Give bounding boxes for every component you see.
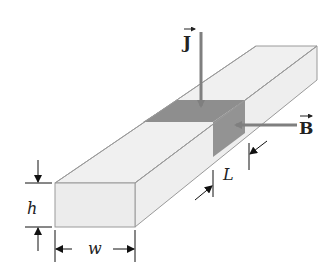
height-label: h xyxy=(27,199,37,218)
bar-front-face xyxy=(55,183,135,227)
l-dimension-right-arrow xyxy=(250,141,267,154)
hall-effect-bar-diagram: J B h w L xyxy=(0,0,334,277)
length-label: L xyxy=(222,165,234,184)
l-dimension-left-arrow xyxy=(195,186,212,200)
current-density-label: J xyxy=(181,32,191,52)
magnetic-field-label: B xyxy=(299,118,313,138)
width-label: w xyxy=(88,239,102,258)
